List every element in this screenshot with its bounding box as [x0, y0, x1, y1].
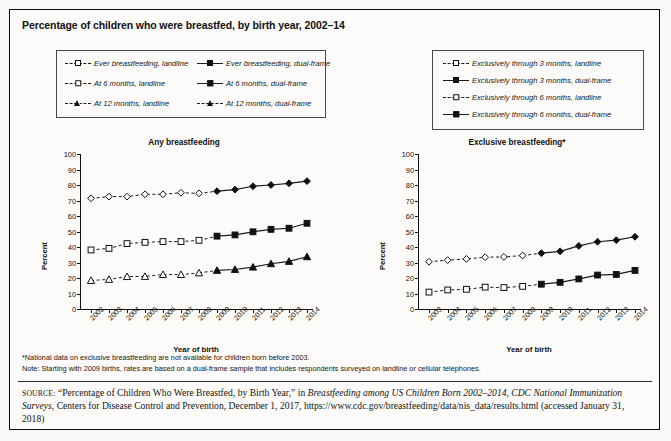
- diamond-open-icon: [75, 60, 81, 66]
- legend-item-label: Exclusively through 6 months, landline: [472, 93, 601, 102]
- legend-marker: [197, 58, 223, 68]
- square-open-marker: [501, 285, 507, 291]
- diamond-filled-icon: [207, 60, 213, 66]
- legend-item-label: Ever breastfeeding, landline: [94, 59, 188, 68]
- diamond-filled-marker: [214, 188, 221, 195]
- triangle-open-marker: [105, 276, 112, 283]
- legend-item: At 6 months, landline: [65, 78, 165, 88]
- diamond-open-marker: [160, 191, 167, 198]
- square-open-marker: [124, 241, 130, 247]
- square-filled-marker: [613, 272, 619, 278]
- square-filled-marker: [286, 225, 292, 231]
- square-open-marker: [426, 289, 432, 295]
- square-filled-marker: [214, 233, 220, 239]
- source-label: SOURCE:: [22, 389, 55, 398]
- diamond-open-marker: [519, 252, 526, 259]
- legend-item: Exclusively through 3 months, dual-frame: [443, 75, 611, 85]
- square-open-marker: [520, 283, 526, 289]
- chart-exclusive-breastfeeding: Exclusive breastfeeding* Percent 0102030…: [372, 138, 662, 348]
- legend-marker: [65, 78, 91, 88]
- square-filled-marker: [576, 276, 582, 282]
- square-filled-marker: [632, 268, 638, 274]
- square-open-icon: [75, 80, 81, 86]
- source-text-2: , Centers for Disease Control and Preven…: [22, 400, 624, 423]
- diamond-open-marker: [124, 193, 131, 200]
- plot-area-exclusive: 0102030405060708090100200320042005200620…: [418, 154, 641, 310]
- diamond-filled-marker: [232, 186, 239, 193]
- legend-item-label: At 12 months, landline: [94, 99, 169, 108]
- square-open-marker: [196, 237, 202, 243]
- triangle-open-icon: [75, 100, 81, 106]
- series-line: [541, 270, 635, 284]
- source-text-1: “Percentage of Children Who Were Breastf…: [55, 387, 307, 398]
- diamond-open-marker: [88, 195, 95, 202]
- diamond-open-marker: [196, 190, 203, 197]
- diamond-filled-marker: [250, 183, 257, 190]
- diamond-filled-marker: [557, 248, 564, 255]
- chart-any-breastfeeding: Any breastfeeding Percent 01020304050607…: [34, 138, 334, 348]
- diamond-open-marker: [426, 258, 433, 265]
- legend-item: Exclusively through 3 months, landline: [443, 58, 601, 68]
- source-divider: [18, 381, 652, 382]
- chart-title-any: Any breastfeeding: [34, 138, 334, 147]
- square-open-icon: [453, 94, 459, 100]
- legend-item: At 12 months, landline: [65, 98, 169, 108]
- square-filled-marker: [595, 272, 601, 278]
- square-filled-marker: [304, 220, 310, 226]
- diamond-filled-marker: [538, 250, 545, 257]
- diamond-open-marker: [482, 254, 489, 261]
- square-filled-marker: [538, 281, 544, 287]
- square-filled-marker: [232, 232, 238, 238]
- square-open-marker: [106, 245, 112, 251]
- square-open-marker: [142, 239, 148, 245]
- square-filled-marker: [557, 279, 563, 285]
- square-open-marker: [482, 284, 488, 290]
- square-filled-marker: [268, 226, 274, 232]
- diamond-filled-marker: [575, 243, 582, 250]
- diamond-open-icon: [453, 60, 459, 66]
- diamond-filled-marker: [594, 238, 601, 245]
- legend-item: Exclusively through 6 months, dual-frame: [443, 109, 611, 119]
- legend-exclusive-breastfeeding: Exclusively through 3 months, landlineEx…: [432, 50, 644, 130]
- figure-title: Percentage of children who were breastfe…: [22, 19, 345, 31]
- triangle-open-marker: [123, 273, 130, 280]
- diamond-open-marker: [444, 257, 451, 264]
- y-tick-mark: [77, 309, 81, 310]
- series-layer: [419, 154, 641, 309]
- series-line: [217, 257, 307, 271]
- legend-marker: [443, 92, 469, 102]
- legend-item: Ever breastfeeding, landline: [65, 58, 188, 68]
- diamond-filled-marker: [632, 233, 639, 240]
- series-layer: [81, 154, 313, 309]
- diamond-filled-marker: [613, 237, 620, 244]
- legend-marker: [197, 78, 223, 88]
- diamond-filled-marker: [286, 180, 293, 187]
- diamond-filled-marker: [304, 178, 311, 185]
- diamond-open-marker: [106, 193, 113, 200]
- series-line: [541, 237, 635, 253]
- series-line: [429, 286, 523, 292]
- note-line-2: Note: Starting with 2009 births, rates a…: [22, 363, 642, 374]
- y-tick-mark: [415, 309, 419, 310]
- legend-item: At 6 months, dual-frame: [197, 78, 307, 88]
- square-filled-marker: [250, 229, 256, 235]
- legend-marker: [443, 58, 469, 68]
- diamond-filled-icon: [453, 77, 459, 83]
- legend-item: Ever breastfeeding, dual-frame: [197, 58, 330, 68]
- square-filled-icon: [453, 111, 459, 117]
- figure-page: Percentage of children who were breastfe…: [0, 0, 671, 441]
- square-open-marker: [160, 239, 166, 245]
- legend-item-label: At 6 months, dual-frame: [226, 79, 307, 88]
- diamond-open-marker: [142, 191, 149, 198]
- diamond-open-marker: [501, 254, 508, 261]
- plot-area-any: 0102030405060708090100200220032004200520…: [80, 154, 313, 310]
- square-filled-icon: [207, 80, 213, 86]
- square-open-marker: [88, 247, 94, 253]
- legend-item-label: Exclusively through 3 months, landline: [472, 59, 601, 68]
- legend-item: At 12 months, dual-frame: [197, 98, 311, 108]
- legend-item-label: At 12 months, dual-frame: [226, 99, 311, 108]
- legend-item-label: Exclusively through 3 months, dual-frame: [472, 76, 611, 85]
- square-open-marker: [178, 239, 184, 245]
- series-line: [217, 181, 307, 191]
- note-line-1: *National data on exclusive breastfeedin…: [22, 352, 642, 363]
